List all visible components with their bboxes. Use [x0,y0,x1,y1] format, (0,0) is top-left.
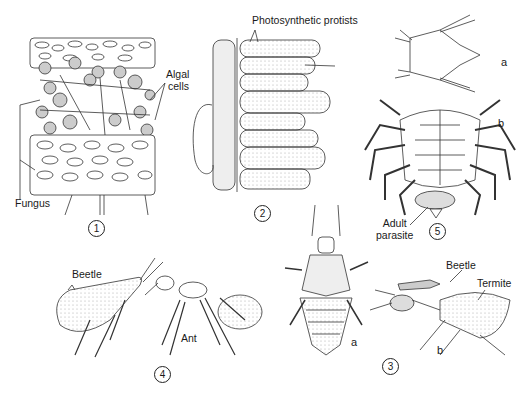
ant-label: Ant [181,332,197,344]
crab-illustration [365,100,515,225]
figure-artwork [0,0,527,400]
fungus-label: Fungus [15,197,50,209]
sublabel-3b: b [437,344,443,356]
panel-number-2: 2 [254,205,271,222]
termite-label: Termite [477,277,511,289]
photosynthetic-protists-label: Photosynthetic protists [252,14,358,26]
sublabel-3a: a [351,336,357,348]
lichen-illustration [20,38,165,215]
adult-parasite-line1: Adult [376,217,413,229]
beetle-label-3: Beetle [446,259,476,271]
panel-number-4: 4 [154,366,171,383]
beetle-label-4: Beetle [72,268,102,280]
algal-cells-line1: Algal [166,68,189,80]
algal-cells-line2: cells [166,80,189,92]
panel-number-3: 3 [382,358,399,375]
beetle-a-illustration [285,205,368,355]
sublabel-5a: a [501,56,507,68]
adult-parasite-label: Adult parasite [376,217,413,241]
algal-cells-label: Algal cells [166,68,189,92]
panel-number-5: 5 [429,223,446,240]
panel-number-1: 1 [88,220,105,237]
adult-parasite-line2: parasite [376,229,413,241]
larva-illustration [395,15,480,92]
sublabel-5b: b [498,117,504,129]
protists-illustration [193,30,335,192]
